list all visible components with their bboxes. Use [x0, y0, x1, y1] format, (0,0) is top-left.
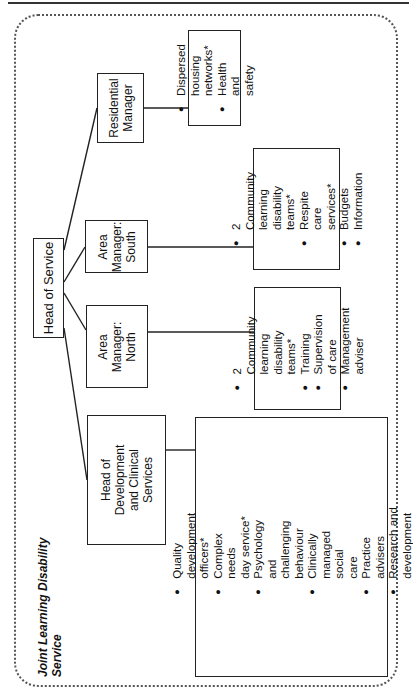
diagram-title: Joint Learning Disability Service — [36, 538, 64, 677]
list-item: Management adviser — [338, 307, 365, 390]
residential-manager-box: Residential Manager — [97, 73, 144, 143]
list-item: Budgets — [337, 172, 351, 246]
area-manager-south-box: Area Manager: South — [85, 220, 148, 273]
head-of-service-label: Head of Service — [42, 242, 56, 335]
area-manager-north-box: Area Manager: North — [86, 305, 148, 388]
head-of-development-label: Head of Development and Clinical Service… — [99, 445, 155, 516]
list-item: Complex needs day service* — [211, 499, 252, 595]
list-item: Quality development officers* — [170, 499, 211, 595]
head-of-service-box: Head of Service — [33, 238, 64, 338]
list-item: Training — [298, 307, 312, 390]
list-item: 2 Community learning disability teams* — [229, 172, 297, 246]
head-of-development-box: Head of Development and Clinical Service… — [87, 415, 166, 545]
area-manager-north-label: Area Manager: North — [96, 321, 138, 372]
list-item: Clinically managed social care — [305, 499, 359, 595]
list-item: Psychology and challenging behaviour — [251, 499, 305, 595]
list-item: Practice advisers — [359, 499, 386, 595]
list-item: Respite care services* — [297, 172, 338, 246]
list-item: Research and development — [386, 499, 413, 595]
residential-duties-box: Dispersed housing networks* Health and s… — [188, 30, 241, 126]
list-item: Information — [351, 172, 365, 246]
north-duties-box: 2 Community learning disability teams* T… — [254, 287, 341, 410]
list-item: Supervision of care — [311, 307, 338, 390]
list-item: 2 Community learning disability teams* — [230, 307, 298, 390]
area-manager-south-label: Area Manager: South — [96, 221, 138, 272]
development-duties-box: Quality development officers* Complex ne… — [195, 417, 388, 677]
list-item: Dispersed housing networks* — [174, 44, 215, 112]
south-duties-box: 2 Community learning disability teams* R… — [253, 148, 340, 270]
list-item: Health and safety — [215, 44, 256, 112]
residential-manager-label: Residential Manager — [107, 78, 135, 137]
